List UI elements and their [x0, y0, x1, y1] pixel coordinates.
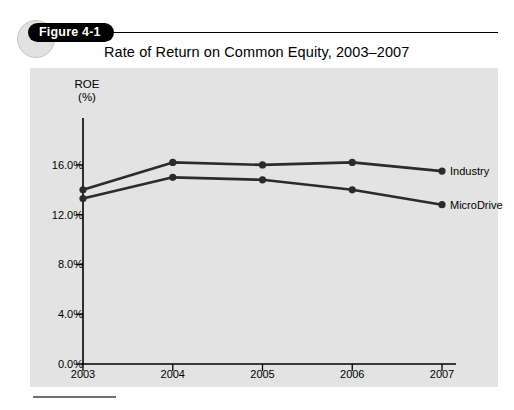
- data-point-microdrive-2006: [349, 186, 356, 193]
- chart-panel: ROE (%) 0.0%4.0%8.0%12.0%16.0% 200320042…: [30, 68, 498, 387]
- data-point-microdrive-2004: [169, 174, 176, 181]
- data-point-industry-2007: [438, 168, 445, 175]
- data-point-industry-2003: [79, 186, 86, 193]
- figure-number-badge: Figure 4-1: [28, 23, 114, 42]
- figure-header: Figure 4-1 Rate of Return on Common Equi…: [0, 18, 514, 62]
- figure-title: Rate of Return on Common Equity, 2003–20…: [104, 44, 409, 60]
- data-point-microdrive-2007: [438, 201, 445, 208]
- line-chart-plot: [30, 68, 498, 387]
- data-point-industry-2006: [349, 159, 356, 166]
- data-point-microdrive-2003: [79, 195, 86, 202]
- figure-header-rule: [112, 32, 498, 33]
- footnote-separator-rule: [33, 396, 116, 398]
- data-point-microdrive-2005: [259, 176, 266, 183]
- data-point-industry-2005: [259, 161, 266, 168]
- page-bleed-text: [58, 0, 478, 6]
- data-point-industry-2004: [169, 159, 176, 166]
